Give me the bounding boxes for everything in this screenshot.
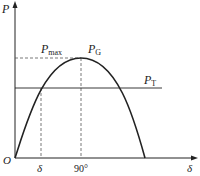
delta-marker-label: δ	[37, 162, 43, 174]
y-axis-label: P	[1, 2, 10, 16]
ninety-marker-label: 90°	[74, 163, 88, 174]
power-angle-diagram: P O δ δ 90° Pmax PG PT	[0, 0, 200, 176]
y-axis-arrow-icon	[13, 1, 18, 8]
origin-label: O	[3, 154, 11, 166]
power-curve	[15, 58, 145, 158]
pg-label: PG	[87, 42, 101, 57]
diagram-svg: P O δ δ 90° Pmax PG PT	[0, 0, 200, 176]
x-axis-label: δ	[187, 162, 193, 174]
x-axis-arrow-icon	[191, 156, 198, 161]
pmax-label: Pmax	[40, 42, 62, 57]
pt-label: PT	[143, 73, 156, 88]
